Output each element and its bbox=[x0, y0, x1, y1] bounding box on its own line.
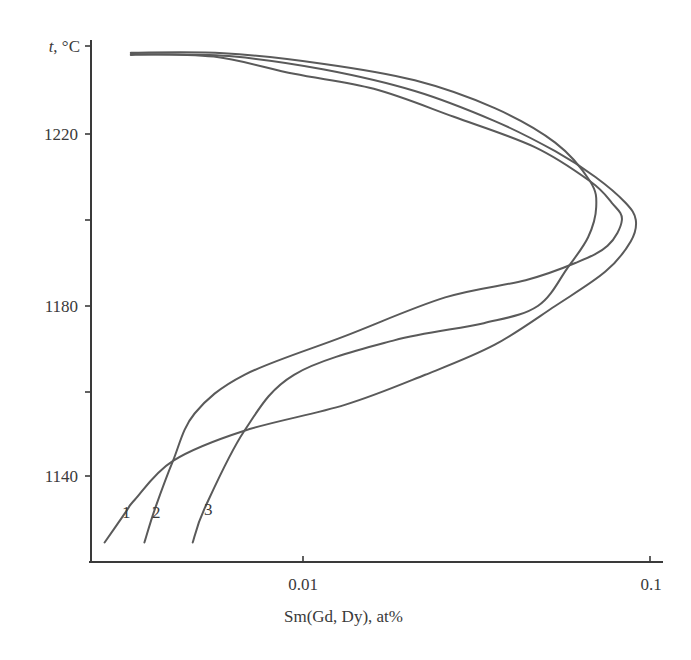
x-axis-title: Sm(Gd, Dy), at% bbox=[284, 607, 403, 626]
y-tick-label-1220: 1220 bbox=[44, 125, 78, 144]
y-axis-title-unit: , °C bbox=[53, 37, 80, 56]
y-axis: t, °C 1220 1180 1140 bbox=[44, 37, 91, 563]
curve-3 bbox=[131, 52, 597, 542]
y-tick-label-1180: 1180 bbox=[45, 297, 78, 316]
line-chart: t, °C 1220 1180 1140 0.01 0.1 Sm(Gd, Dy)… bbox=[0, 0, 691, 660]
curve-labels: 1 2 3 bbox=[122, 500, 213, 522]
curve-label-1: 1 bbox=[122, 503, 131, 522]
x-axis: 0.01 0.1 Sm(Gd, Dy), at% bbox=[89, 556, 663, 626]
curve-2 bbox=[131, 54, 622, 543]
y-tick-label-1140: 1140 bbox=[45, 467, 78, 486]
curves bbox=[105, 52, 637, 542]
x-tick-label-0.01: 0.01 bbox=[288, 575, 318, 594]
curve-1 bbox=[105, 54, 637, 542]
curve-label-3: 3 bbox=[204, 500, 213, 519]
curve-label-2: 2 bbox=[152, 503, 161, 522]
y-axis-title: t, °C bbox=[49, 37, 80, 56]
x-tick-label-0.1: 0.1 bbox=[640, 575, 661, 594]
